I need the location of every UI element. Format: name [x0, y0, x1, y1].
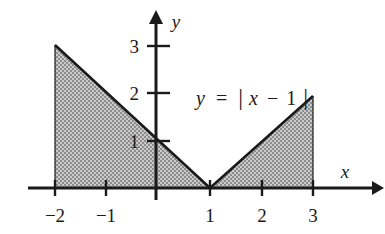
x-axis-arrowhead: [372, 181, 384, 195]
svg-text:y = |: y = | x − 1 |: [194, 84, 308, 110]
equation-constant: 1: [286, 87, 296, 109]
x-tick-label-2: 2: [257, 205, 267, 226]
equation-minus: −: [267, 87, 278, 109]
y-tick-label-3: 3: [130, 36, 140, 57]
x-tick-label-1: 1: [205, 205, 215, 226]
equation-bar-close: |: [303, 84, 308, 110]
equation-label: y = | x − 1 |: [194, 84, 308, 110]
x-tick-label--1: −1: [96, 205, 116, 226]
y-tick-label-1: 1: [130, 131, 140, 152]
shaded-region: [55, 45, 313, 188]
x-axis-label: x: [340, 161, 350, 182]
y-axis-arrowhead: [149, 10, 163, 24]
y-tick-label-2: 2: [130, 83, 140, 104]
equation-variable: x: [248, 87, 258, 109]
y-axis-label: y: [170, 11, 181, 32]
equation-equals: =: [216, 87, 227, 109]
graph-canvas: −2 −1 1 2 3 1 2 3 x y y = | x − 1 |: [0, 0, 385, 234]
x-tick-label--2: −2: [45, 205, 65, 226]
absolute-value-graph-figure: −2 −1 1 2 3 1 2 3 x y y = | x − 1 |: [0, 0, 385, 234]
equation-lhs: y: [194, 87, 205, 110]
x-tick-label-3: 3: [308, 205, 318, 226]
equation-bar-open: |: [238, 84, 243, 110]
y-axis-ticks: [147, 46, 170, 141]
